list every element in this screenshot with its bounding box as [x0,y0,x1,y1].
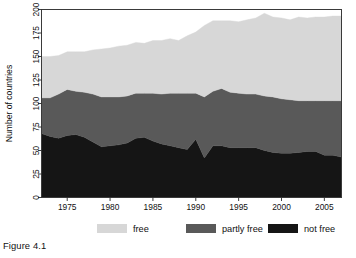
legend-swatch-not-free [268,224,298,233]
figure-container: 0255075100125150175200 19751980198519901… [0,0,356,258]
legend-label-free: free [133,224,149,234]
x-tick-label: 1995 [229,202,248,212]
x-tick-label: 1980 [101,202,120,212]
x-axis: 1975198019851990199520002005 [58,198,334,213]
y-tick-label: 25 [31,169,41,179]
figure-caption: Figure 4.1 [3,240,46,251]
y-axis-title: Number of countries [4,65,14,142]
area-series-free [42,13,342,100]
y-tick-label: 100 [31,96,41,110]
y-tick-label: 150 [31,49,41,63]
legend-swatch-free [97,224,127,233]
y-tick-label: 125 [31,73,41,87]
x-tick-label: 1985 [144,202,163,212]
y-tick-label: 200 [31,2,41,16]
legend-label-partly-free: partly free [222,224,263,234]
y-tick-label: 50 [31,146,41,156]
y-axis-title-label: Number of countries [4,65,14,142]
x-tick-label: 1990 [186,202,205,212]
y-tick-label: 75 [31,122,41,132]
legend-label-not-free: not free [304,224,335,234]
stacked-area-chart: 0255075100125150175200 19751980198519901… [0,0,356,258]
y-tick-label: 0 [31,195,41,200]
x-tick-label: 2005 [315,202,334,212]
y-tick-label: 175 [31,26,41,40]
y-axis: 0255075100125150175200 [31,2,42,200]
chart-legend: freepartly freenot free [97,224,335,234]
plot-areas [42,13,342,197]
x-tick-label: 1975 [58,202,77,212]
x-tick-label: 2000 [272,202,291,212]
legend-swatch-partly-free [186,224,216,233]
